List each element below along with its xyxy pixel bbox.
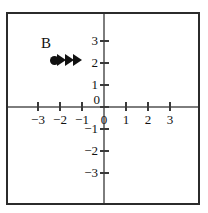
x-tick-label: 1 [114, 113, 138, 126]
y-tick [100, 40, 109, 42]
y-tick [100, 106, 109, 108]
y-tick-label: 3 [74, 34, 98, 47]
y-tick [100, 84, 109, 86]
y-axis [103, 14, 105, 203]
x-tick [169, 102, 171, 111]
y-tick [100, 172, 109, 174]
x-tick [59, 102, 61, 111]
x-tick-label: −3 [26, 113, 50, 126]
y-tick-label: −3 [74, 166, 98, 179]
x-tick [147, 102, 149, 111]
x-tick [37, 102, 39, 111]
x-tick-label: 3 [158, 113, 182, 126]
y-tick [100, 150, 109, 152]
y-tick-label: 1 [74, 78, 98, 91]
y-tick-label: −2 [74, 144, 98, 157]
vector-b-label: B [41, 36, 51, 51]
y-tick-label: −1 [74, 122, 98, 135]
vector-b [48, 53, 86, 68]
x-tick-label: 2 [136, 113, 160, 126]
y-tick [100, 62, 109, 64]
arrowhead-icon [73, 54, 82, 66]
y-tick [100, 128, 109, 130]
x-tick [125, 102, 127, 111]
origin-zero-label: 0 [80, 93, 100, 106]
coordinate-plane-figure: −3−2−10123 321−1−2−3 0 B [0, 0, 208, 213]
x-tick-label: −2 [48, 113, 72, 126]
